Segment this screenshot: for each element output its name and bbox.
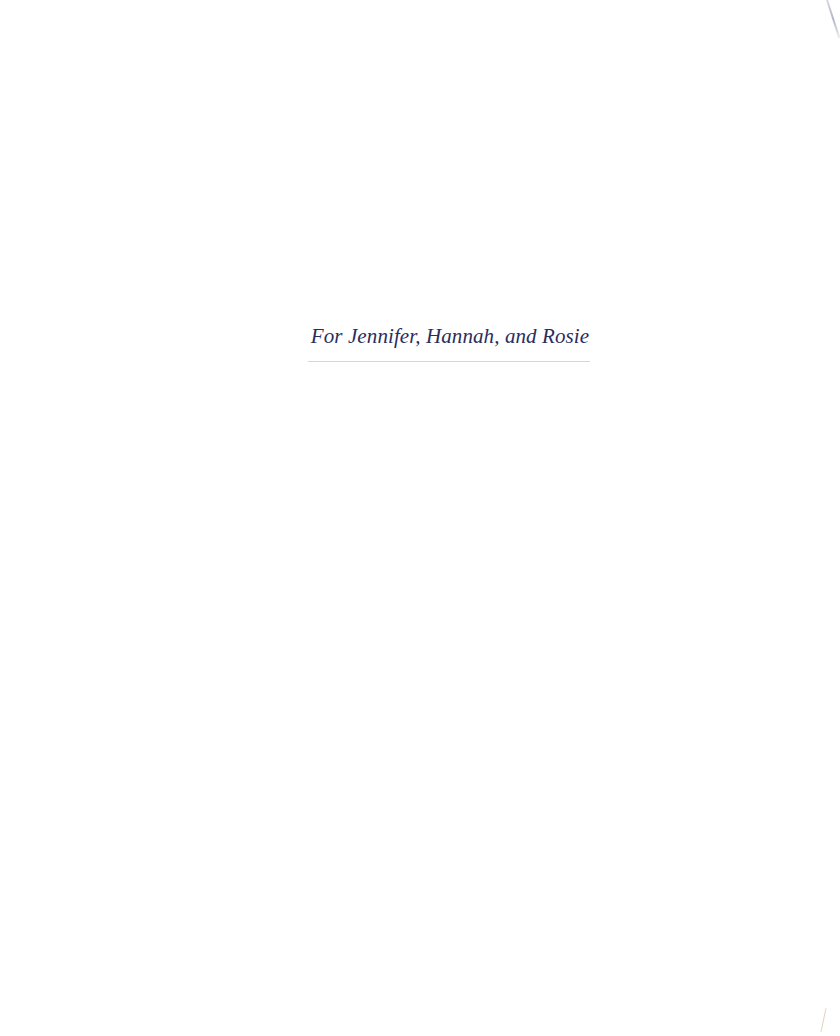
dedication-text: For Jennifer, Hannah, and Rosie: [308, 324, 592, 349]
dedication-rule: [308, 361, 590, 362]
page-edge-mark: [826, 0, 840, 38]
page-corner-mark: [821, 1008, 827, 1032]
